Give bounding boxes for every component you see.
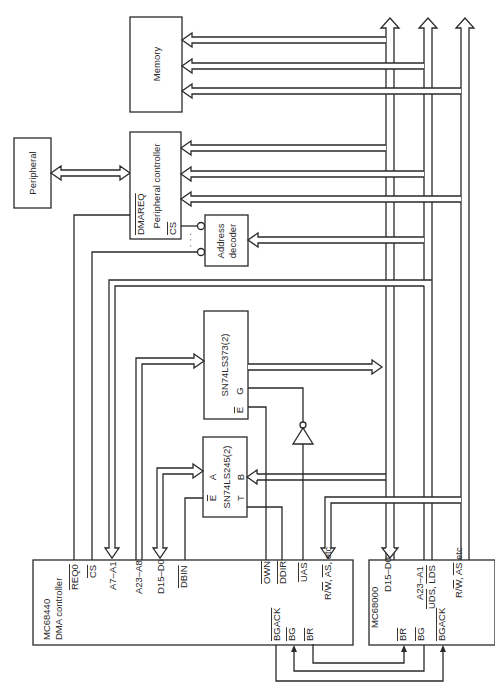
cpu-a23a1-pin: A23–A1 xyxy=(414,566,425,600)
address-decoder-label-1: Address xyxy=(215,223,226,258)
peripheral-controller-bus-arrows xyxy=(181,141,461,206)
dma-cs-line xyxy=(92,252,197,560)
a7-a1-bus xyxy=(105,280,432,558)
cpu-bg-pin: BG xyxy=(415,627,426,641)
dma-reqo-pin: REQ0 xyxy=(69,564,80,590)
decoder-output-bubble-2 xyxy=(198,249,205,256)
cpu-d15d0-pin: D15–D0 xyxy=(382,557,393,592)
bus-arbitration-lines xyxy=(276,644,446,681)
peripheral-label: Peripheral xyxy=(27,151,38,194)
dma-a7a1-pin: A7–A1 xyxy=(107,561,118,590)
cpu-uds-lds-pin: UDS, LDS xyxy=(426,565,437,609)
dma-a23a8-pin: A23–A8 xyxy=(133,560,144,594)
cpu-rw-pin: R/W, AS etc xyxy=(453,547,464,598)
system-address-bus xyxy=(419,18,437,560)
latch-e-pin: E xyxy=(234,407,245,413)
peripheral-link-arrow xyxy=(51,166,130,180)
latch-g-pin: G xyxy=(234,387,245,394)
dma-rw-pin: R/W, AS, etc xyxy=(322,546,333,600)
dma-bgack-pin: BGACK xyxy=(271,607,282,641)
address-decoder-label-2: decoder xyxy=(227,224,238,258)
peripheral-controller-label: Peripheral controller xyxy=(151,143,162,228)
transceiver-label: SN74LS245(2) xyxy=(221,446,232,509)
cpu-data-arrow xyxy=(382,548,398,558)
decoder-address-input-arrow xyxy=(248,233,424,247)
dbin-line xyxy=(185,498,203,560)
decoder-dots: · · · xyxy=(184,233,195,248)
cpu-br-pin: BR xyxy=(397,628,408,641)
pc-dmareq-pin: DMAREQ xyxy=(135,193,146,235)
dmareq-line xyxy=(74,215,130,560)
inverter-icon xyxy=(293,428,313,444)
transceiver-b-bus xyxy=(247,470,386,484)
ddir-line xyxy=(247,507,282,560)
latch-output-bus xyxy=(248,360,382,374)
pc-cs-pin: CS xyxy=(167,222,178,235)
decoder-output-bubble-1 xyxy=(198,223,205,230)
memory-bus-arrows xyxy=(182,33,461,98)
transceiver-b-pin: B xyxy=(235,474,246,480)
dma-ddir-pin: DDIR xyxy=(277,561,288,584)
dma-data-bus xyxy=(153,464,203,558)
transceiver-e-pin: E xyxy=(207,495,218,501)
system-control-bus xyxy=(456,18,474,560)
a23-a8-bus xyxy=(136,354,204,560)
transceiver-t-pin: T xyxy=(235,495,246,501)
dma-dbin-pin: DBIN xyxy=(178,565,189,588)
latch-label: SN74LS373(2) xyxy=(219,334,230,397)
transceiver-a-pin: A xyxy=(207,473,218,480)
dma-br-pin: BR xyxy=(304,628,315,641)
dma-d15d0-pin: D15–D0 xyxy=(155,559,166,594)
latch-g-line xyxy=(248,388,303,422)
dma-system-block-diagram: Memory Peripheral Peripheral controller … xyxy=(0,0,495,684)
memory-label: Memory xyxy=(151,47,162,82)
dma-name: MC68440 xyxy=(41,599,52,640)
cpu-name: MC68000 xyxy=(369,587,380,628)
system-data-bus xyxy=(381,18,399,560)
dma-bg-pin: BG xyxy=(286,627,297,641)
dma-cs-pin: CS xyxy=(87,565,98,578)
dma-desc: DMA controller xyxy=(53,578,64,640)
dma-uas-pin: UAS xyxy=(298,562,309,582)
cpu-bgack-pin: BGACK xyxy=(436,607,447,641)
dma-own-pin: OWN xyxy=(261,561,272,584)
